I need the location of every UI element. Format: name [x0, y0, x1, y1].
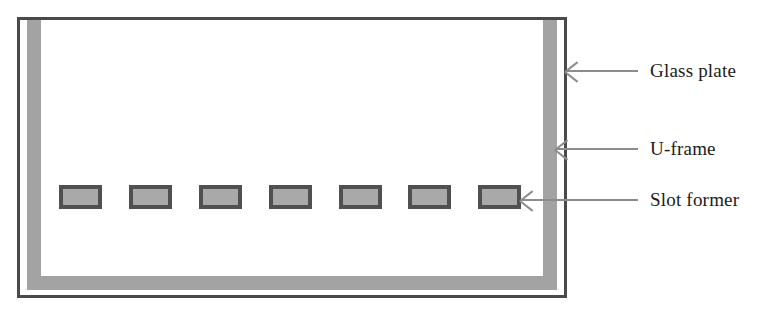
slot-former — [129, 185, 172, 209]
arrow-line-icon — [556, 148, 638, 150]
slot-former — [59, 185, 102, 209]
slot-former — [199, 185, 242, 209]
callout-label-glass-plate: Glass plate — [650, 61, 736, 80]
slot-former-row — [59, 185, 521, 209]
arrow-line-icon — [521, 199, 638, 201]
u-frame-bottom-leg — [27, 276, 557, 290]
u-frame-right-leg — [543, 20, 557, 290]
slot-former — [478, 185, 521, 209]
u-frame-shape — [27, 20, 557, 290]
slot-former — [408, 185, 451, 209]
slot-former — [339, 185, 382, 209]
callout-label-u-frame: U-frame — [650, 139, 716, 158]
diagram-canvas: Glass plateU-frameSlot former — [0, 0, 776, 321]
arrow-line-icon — [566, 70, 638, 72]
callout-label-slot-former: Slot former — [650, 190, 739, 209]
u-frame-left-leg — [27, 20, 41, 290]
slot-former — [269, 185, 312, 209]
